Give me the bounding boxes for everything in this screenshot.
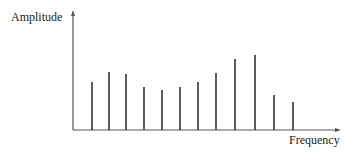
x-axis-arrow-icon <box>335 128 341 132</box>
spectrum-diagram: Amplitude Frequency <box>0 0 353 154</box>
y-axis-label: Amplitude <box>11 10 62 25</box>
x-axis-label: Frequency <box>289 133 340 148</box>
y-axis-arrow-icon <box>71 10 75 16</box>
spectral-lines <box>92 55 293 130</box>
